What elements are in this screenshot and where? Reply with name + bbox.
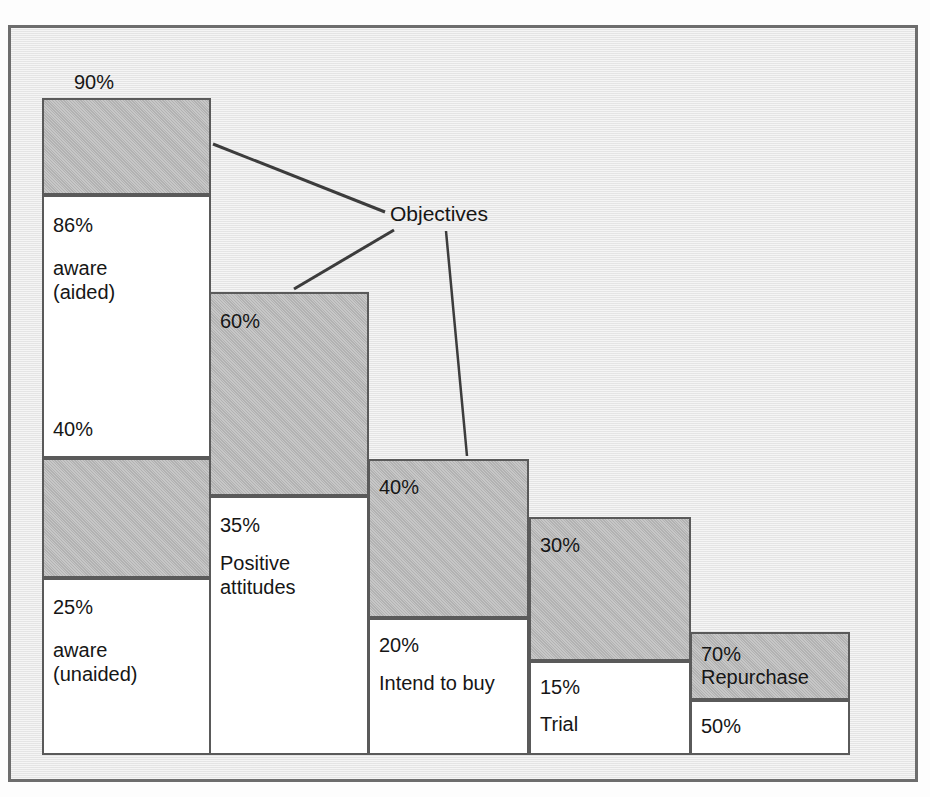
value-label: 15% [540, 677, 685, 697]
category-label-line1: aware [53, 258, 205, 278]
bar-segment-objective-40[interactable] [42, 458, 211, 578]
bar-segment-label-aware-aided: 86% aware (aided) [53, 215, 205, 302]
bar-segment-repurchase[interactable]: 50% [690, 700, 850, 755]
value-label: 35% [220, 515, 363, 535]
bar-segment-intend-to-buy[interactable]: 20% Intend to buy [368, 618, 529, 755]
leader-line-to-60 [294, 230, 394, 289]
leader-line-to-40 [446, 231, 467, 456]
bar-segment-objective-70[interactable]: 70% Repurchase [690, 632, 850, 700]
bar-column-intend-to-buy[interactable]: 40% 20% Intend to buy [368, 459, 529, 755]
bar-segment-label-objective-40b: 40% [379, 477, 523, 497]
value-label: 20% [379, 635, 523, 655]
bar-segment-label-intend-to-buy: 20% Intend to buy [379, 635, 523, 693]
bar-segment-objective-30[interactable]: 30% [529, 517, 691, 661]
bar-segment-aware-unaided[interactable]: 25% aware (unaided) [42, 578, 211, 755]
value-label: 86% [53, 215, 205, 235]
category-label-line1: aware [53, 640, 205, 660]
plot-area: 86% aware (aided) 40% 25% aware (unaided… [0, 0, 930, 797]
value-label: 70% [701, 644, 844, 664]
bar-segment-objective-60[interactable]: 60% [209, 292, 369, 496]
value-label: 50% [701, 716, 844, 736]
value-label: 25% [53, 597, 205, 617]
objectives-annotation-label: Objectives [390, 203, 488, 224]
bar-segment-label-aware-unaided: 25% aware (unaided) [53, 597, 205, 684]
bar-segment-objective-40b[interactable]: 40% [368, 459, 529, 618]
bar-segment-label-positive-attitudes: 35% Positive attitudes [220, 515, 363, 597]
bar-segment-trial[interactable]: 15% Trial [529, 661, 691, 755]
category-label-line2: (aided) [53, 282, 205, 302]
value-label: 30% [540, 535, 685, 555]
category-label-line1: Trial [540, 714, 685, 734]
category-label-line2: attitudes [220, 577, 363, 597]
bar-column-awareness[interactable]: 86% aware (aided) 40% 25% aware (unaided… [42, 98, 211, 755]
bar-segment-label-objective-40: 40% [53, 419, 205, 439]
bar-segment-label-objective-70: 70% Repurchase [701, 644, 844, 687]
bar-segment-label-trial: 15% Trial [540, 677, 685, 734]
bar-column-repurchase[interactable]: 70% Repurchase 50% [690, 632, 850, 755]
bar-column-trial[interactable]: 30% 15% Trial [529, 517, 691, 755]
value-label: 40% [379, 477, 523, 497]
category-label-line2: (unaided) [53, 664, 205, 684]
bar-column-positive-attitudes[interactable]: 60% 35% Positive attitudes [209, 292, 369, 755]
bar-top-value-label-90: 90% [74, 72, 114, 92]
bar-segment-positive-attitudes[interactable]: 35% Positive attitudes [209, 496, 369, 755]
bar-segment-aware-aided[interactable]: 86% aware (aided) 40% [42, 195, 211, 458]
value-label: 60% [220, 311, 363, 331]
bar-segment-objective-90[interactable] [42, 98, 211, 195]
bar-segment-label-objective-30: 30% [540, 535, 685, 555]
value-label: 40% [53, 419, 205, 439]
bar-segment-label-repurchase: 50% [701, 716, 844, 736]
category-label-line1: Positive [220, 553, 363, 573]
chart-figure: 86% aware (aided) 40% 25% aware (unaided… [0, 0, 930, 797]
category-label-line1: Intend to buy [379, 673, 523, 693]
category-label-line1: Repurchase [701, 667, 844, 687]
bar-segment-label-objective-60: 60% [220, 311, 363, 331]
leader-line-to-90 [213, 144, 385, 212]
